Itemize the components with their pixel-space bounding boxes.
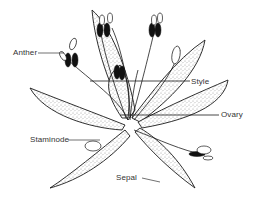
staminode: [85, 141, 101, 151]
sepal-lower-right: [135, 128, 195, 188]
label-sepal: Sepal: [116, 174, 137, 182]
label-style: Style: [191, 78, 209, 86]
flower-illustration: [0, 0, 254, 198]
label-staminode: Staminode: [30, 136, 69, 144]
label-ovary: Ovary: [221, 111, 243, 119]
label-anther: Anther: [13, 49, 37, 57]
flower-diagram: Anther Style Ovary Staminode Sepal: [0, 0, 254, 198]
